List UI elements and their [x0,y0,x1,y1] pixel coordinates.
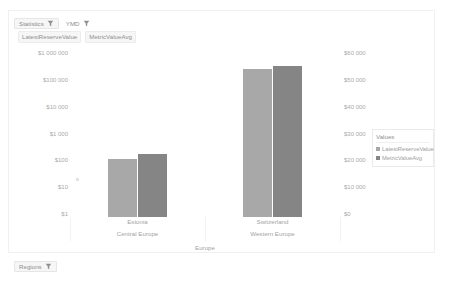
axis-tick-label: $100 000 [43,77,68,83]
field-button-label: Regions [19,262,42,271]
category-label-subregion: Central Europe [70,229,205,238]
bar-group [205,50,340,217]
axis-tick-label: $10 [58,184,68,190]
legend-item-metric-value-avg[interactable]: MetricValueAvg [376,154,430,162]
category-label-subregion: Western Europe [205,229,340,238]
left-value-axis: $1 000 000$100 000$10 000$1 000$100$10$1 [8,50,68,217]
field-button-label: YMD [66,19,80,28]
axis-tick-label: $60 000 [344,50,366,56]
axis-tick-label: $10 000 [344,184,366,190]
bar-latestreservevalue[interactable] [108,159,137,217]
legend-swatch [376,147,380,151]
filter-funnel-icon[interactable] [47,20,54,27]
legend-item-latest-reserve-value[interactable]: LatestReserveValue [376,145,430,153]
legend-swatch [376,156,380,160]
axis-tick-label: $0 [344,211,351,217]
category-separator [70,217,71,241]
category-axis: EstoniaSwitzerland Central EuropeWestern… [70,217,340,255]
bar-metricvalueavg[interactable] [273,66,302,217]
axis-tick-label: $1 000 000 [38,50,68,56]
filter-funnel-icon[interactable] [83,20,90,27]
measure-name-bar: LatestReserveValue MetricValueAvg [18,31,136,42]
category-separator [205,217,206,241]
axis-tick-label: $20 000 [344,157,366,163]
filter-funnel-icon[interactable] [45,263,52,270]
axis-tick-label: $40 000 [344,104,366,110]
legend-title: Values [376,132,430,143]
pivot-row-field-bar: Regions [14,260,57,272]
chart-legend: Values LatestReserveValue MetricValueAvg [372,129,434,167]
axis-tick-label: $30 000 [344,131,366,137]
field-button-ymd[interactable]: YMD [64,18,92,29]
field-button-label: Statistics [19,19,44,28]
pivot-field-filter-bar: Statistics YMD [14,17,92,29]
plot-area [70,50,340,217]
axis-tick-label: $1 000 [50,131,68,137]
bar-latestreservevalue[interactable] [243,69,272,217]
field-button-statistics[interactable]: Statistics [14,18,59,29]
axis-tick-label: $1 [61,211,68,217]
legend-item-label: MetricValueAvg [382,154,422,162]
measure-chip-metric-value-avg[interactable]: MetricValueAvg [85,31,136,43]
category-label-country: Switzerland [205,217,340,226]
legend-item-label: LatestReserveValue [382,145,434,153]
bar-group [70,50,205,217]
axis-tick-label: $50 000 [344,77,366,83]
category-root-label: Europe [70,243,340,252]
category-separator [340,217,341,241]
bar-metricvalueavg[interactable] [138,154,167,217]
category-label-country: Estonia [70,217,205,226]
axis-tick-label: $10 000 [46,104,68,110]
measure-chip-latest-reserve-value[interactable]: LatestReserveValue [18,31,81,43]
field-button-regions[interactable]: Regions [14,261,57,272]
axis-tick-label: $100 [55,157,68,163]
